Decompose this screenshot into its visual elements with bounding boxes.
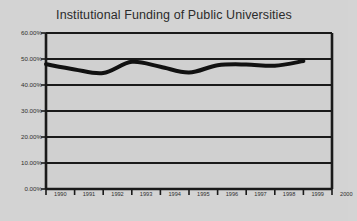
x-tick-label-1999: 1999 bbox=[303, 192, 333, 198]
x-tick-label-1994: 1994 bbox=[160, 192, 190, 198]
x-tick-label-1998: 1998 bbox=[274, 192, 304, 198]
x-tick-label-1992: 1992 bbox=[103, 192, 133, 198]
x-tick-label-2000: 2000 bbox=[331, 192, 357, 198]
x-tick-label-1993: 1993 bbox=[131, 192, 161, 198]
x-tick-label-1991: 1991 bbox=[74, 192, 104, 198]
x-tick-label-1990: 1990 bbox=[45, 192, 75, 198]
x-tick-label-1996: 1996 bbox=[217, 192, 247, 198]
x-tick-label-1997: 1997 bbox=[246, 192, 276, 198]
x-tick-label-1995: 1995 bbox=[188, 192, 218, 198]
